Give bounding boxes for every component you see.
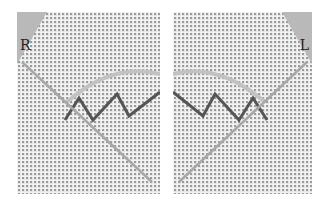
stitch-illustration — [173, 12, 312, 194]
stitch-illustration — [17, 12, 160, 194]
left-handed-panel: L — [173, 12, 312, 194]
right-handed-panel: R — [17, 12, 160, 194]
